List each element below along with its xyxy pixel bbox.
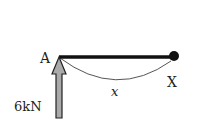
label-x-point: X (167, 74, 177, 90)
label-a: A (39, 50, 51, 66)
force-arrow-icon (52, 57, 66, 118)
beam-diagram: A X x 6kN (0, 0, 201, 131)
label-distance: x (111, 84, 119, 99)
label-force: 6kN (14, 99, 42, 114)
distance-arc (60, 58, 171, 80)
point-x-dot (169, 51, 179, 61)
